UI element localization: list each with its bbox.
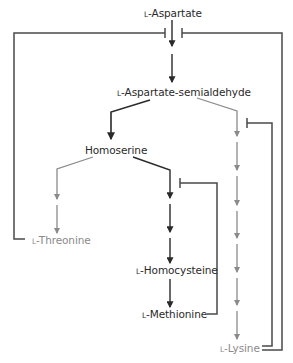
node-name: -Methionine xyxy=(146,308,207,320)
node-l-aspartate: L-Aspartate xyxy=(144,7,202,21)
feedback-lysine-branch-inhibition xyxy=(247,118,272,346)
node-homoserine: Homoserine xyxy=(85,144,147,156)
node-l-lysine: L-Lysine xyxy=(220,342,260,356)
node-name: -Homocysteine xyxy=(140,264,218,276)
edge-homoserine-to-threonine xyxy=(57,157,93,233)
edge-semialdehyde-to-homoserine xyxy=(111,100,150,139)
node-name: -Aspartate xyxy=(148,7,202,19)
feedback-lysine-aspartate-inhibition xyxy=(182,28,282,350)
node-name: -Aspartate-semialdehyde xyxy=(121,86,251,98)
feedback-methionine-inhibition xyxy=(180,178,217,314)
node-l-homocysteine: L-Homocysteine xyxy=(136,264,218,278)
node-name: -Lysine xyxy=(224,342,260,354)
edge-homoserine-to-methionine xyxy=(133,157,170,307)
node-l-aspartate-semialdehyde: L-Aspartate-semialdehyde xyxy=(117,86,251,100)
node-l-methionine: L-Methionine xyxy=(142,308,207,322)
feedback-threonine-inhibition xyxy=(14,28,165,239)
node-name: Homoserine xyxy=(85,144,147,156)
node-name: -Threonine xyxy=(36,234,91,246)
node-l-threonine: L-Threonine xyxy=(32,234,91,248)
